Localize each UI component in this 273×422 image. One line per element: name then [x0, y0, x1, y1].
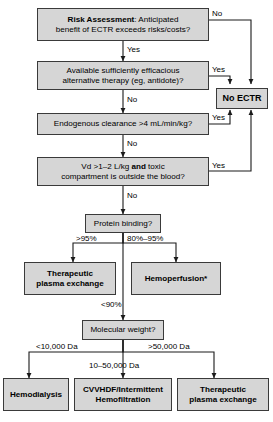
risk-assessment-line2: benefit of ECTR exceeds risks/costs? [56, 25, 191, 34]
edge-label-mw-over-50000: >50,000 Da [148, 342, 190, 351]
vd-line1-a: Vd >1–2 L/kg [81, 162, 131, 171]
edge-label-mw-10-50000: 10–50,000 Da [89, 361, 139, 370]
cvvhdf-line1: CVVHDF/Intermittent [83, 385, 163, 394]
node-endogenous-clearance: Endogenous clearance >4 mL/min/kg? [37, 113, 209, 135]
edge-label-vd-yes: Yes [212, 161, 225, 170]
node-hemoperfusion: Hemoperfusion* [131, 262, 221, 295]
edge-label-protein-binding-80-95: 80%–95% [127, 234, 163, 243]
node-molecular-weight-text: Molecular weight? [85, 325, 161, 335]
tpe-upper-line1: Therapeutic [47, 269, 93, 278]
edge-label-alt-yes: Yes [212, 65, 225, 74]
node-vd-compartment-text: Vd >1–2 L/kg and toxic compartment is ou… [40, 162, 206, 181]
edge-label-mw-under-10000: <10,000 Da [36, 342, 78, 351]
tpe-upper-line2: plasma exchange [36, 279, 103, 288]
node-risk-assessment-text: Risk Assessment: Anticipated benefit of … [40, 15, 206, 34]
edge-label-vd-no: No [127, 191, 137, 200]
node-cvvhdf-hemofiltration: CVVHDF/Intermittent Hemofiltration [74, 378, 172, 411]
node-hemoperfusion-text: Hemoperfusion* [134, 274, 218, 284]
node-endogenous-clearance-text: Endogenous clearance >4 mL/min/kg? [40, 119, 206, 129]
node-no-ectr: No ECTR [216, 88, 268, 109]
edge-label-clearance-yes: Yes [212, 113, 225, 122]
risk-assessment-bold-label: Risk Assessment [68, 15, 135, 24]
node-therapeutic-plasma-exchange-lower: Therapeutic plasma exchange [177, 378, 269, 411]
edge-label-risk-no: No [212, 9, 222, 18]
node-therapeutic-plasma-exchange-upper: Therapeutic plasma exchange [24, 262, 116, 295]
risk-assessment-rest-label: : Anticipated [134, 15, 178, 24]
node-alternative-therapy-text: Available sufficiently efficacious alter… [40, 66, 206, 85]
vd-line1-c: toxic [146, 162, 165, 171]
node-hemodialysis: Hemodialysis [3, 378, 69, 411]
edge-label-alt-no: No [127, 95, 137, 104]
node-protein-binding: Protein binding? [85, 214, 161, 233]
alternative-therapy-line2: alternative therapy (eg, antidote)? [62, 76, 183, 85]
node-alternative-therapy: Available sufficiently efficacious alter… [37, 61, 209, 90]
edge-label-protein-binding-over-95: >95% [76, 234, 97, 243]
vd-line1-and: and [131, 162, 145, 171]
node-tpe-lower-text: Therapeutic plasma exchange [180, 385, 266, 404]
alternative-therapy-line1: Available sufficiently efficacious [67, 66, 180, 75]
edge-label-risk-yes: Yes [127, 45, 140, 54]
flowchart-diagram: Risk Assessment: Anticipated benefit of … [0, 0, 273, 422]
node-hemodialysis-text: Hemodialysis [6, 390, 66, 400]
node-molecular-weight: Molecular weight? [82, 320, 164, 340]
node-tpe-upper-text: Therapeutic plasma exchange [27, 269, 113, 288]
tpe-lower-line1: Therapeutic [200, 385, 246, 394]
edge-label-clearance-no: No [127, 139, 137, 148]
node-risk-assessment: Risk Assessment: Anticipated benefit of … [37, 8, 209, 41]
node-vd-compartment: Vd >1–2 L/kg and toxic compartment is ou… [37, 157, 209, 186]
tpe-lower-line2: plasma exchange [189, 395, 256, 404]
node-no-ectr-text: No ECTR [219, 93, 265, 104]
cvvhdf-line2: Hemofiltration [96, 395, 151, 404]
node-cvvhdf-text: CVVHDF/Intermittent Hemofiltration [77, 385, 169, 404]
vd-line2: compartment is outside the blood? [61, 172, 185, 181]
edge-label-protein-binding-under-90: <90% [101, 300, 122, 309]
node-protein-binding-text: Protein binding? [88, 219, 158, 229]
